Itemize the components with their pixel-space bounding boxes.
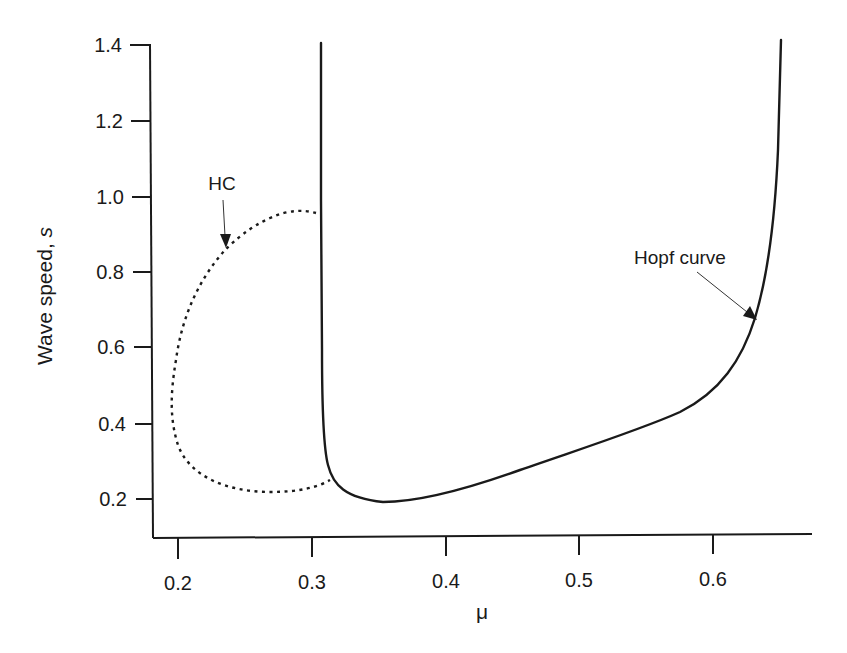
x-tick-label: 0.5 <box>565 569 593 591</box>
y-tick-label: 0.4 <box>98 413 126 435</box>
x-ticks <box>178 535 713 559</box>
hopf-curve-line <box>321 40 781 502</box>
y-axis-title-var: s <box>33 226 56 237</box>
x-tick-label: 0.6 <box>699 568 727 590</box>
y-tick-label: 1.0 <box>96 186 124 208</box>
axes <box>150 44 812 538</box>
x-tick-label: 0.3 <box>298 571 326 593</box>
x-tick-label: 0.2 <box>164 572 192 594</box>
y-axis-title: Wave speed, s <box>33 226 56 365</box>
y-tick-label: 0.8 <box>96 261 124 283</box>
y-tick-label: 1.2 <box>95 110 123 132</box>
hopf-arrow-head-icon <box>743 306 757 320</box>
hc-arrow-head-icon <box>220 234 231 248</box>
x-axis-title: μ <box>476 600 488 623</box>
hc-curve-line <box>172 211 330 492</box>
y-tick-label: 1.4 <box>94 34 122 56</box>
hopf-arrow-shaft <box>697 272 747 312</box>
x-tick-labels: 0.2 0.3 0.4 0.5 0.6 <box>164 568 727 594</box>
y-axis-title-main: Wave speed, <box>33 237 56 365</box>
y-tick-labels: 1.4 1.2 1.0 0.8 0.6 0.4 0.2 <box>94 34 127 510</box>
y-tick-label: 0.2 <box>99 488 127 510</box>
x-tick-label: 0.4 <box>432 570 460 592</box>
y-axis-line <box>150 44 153 538</box>
y-tick-label: 0.6 <box>97 336 125 358</box>
hc-label: HC <box>208 173 235 194</box>
hopf-curve-label: Hopf curve <box>634 247 726 268</box>
chart: 1.4 1.2 1.0 0.8 0.6 0.4 0.2 0.2 0.3 0.4 … <box>0 0 847 653</box>
hc-arrow-shaft <box>223 200 225 236</box>
